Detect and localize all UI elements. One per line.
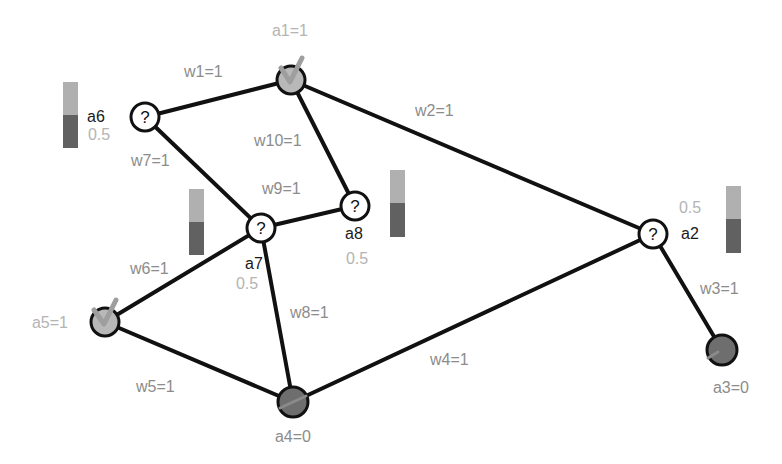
node-value-a2: 0.5 xyxy=(679,199,701,216)
node-label-a5: a5=1 xyxy=(32,314,68,331)
bar-a8 xyxy=(390,170,405,237)
node-a1[interactable]: a1=1 xyxy=(272,22,308,94)
bar-a7 xyxy=(189,189,204,255)
node-a3[interactable]: a3=0 xyxy=(707,335,749,396)
node-value-a7: 0.5 xyxy=(236,275,258,292)
node-a6[interactable]: ? a6 0.5 xyxy=(87,103,159,143)
edge-w1 xyxy=(145,80,291,117)
edge-label-w2: w2=1 xyxy=(414,102,454,119)
bar-a2 xyxy=(726,186,741,253)
node-value-a8: 0.5 xyxy=(346,250,368,267)
edge-label-w7: w7=1 xyxy=(130,152,170,169)
question-icon: ? xyxy=(648,225,657,244)
node-label-a7: a7 xyxy=(245,255,263,272)
node-label-a3: a3=0 xyxy=(713,379,749,396)
node-label-a6: a6 xyxy=(87,108,105,125)
edge-label-w4: w4=1 xyxy=(429,351,469,368)
question-icon: ? xyxy=(350,197,359,216)
node-a4[interactable]: a4=0 xyxy=(275,387,311,445)
question-icon: ? xyxy=(256,219,265,238)
edge-label-w10: w10=1 xyxy=(253,132,302,149)
edge-label-w6: w6=1 xyxy=(129,260,169,277)
node-label-a8: a8 xyxy=(345,225,363,242)
edge-label-w5: w5=1 xyxy=(135,378,175,395)
node-label-a4: a4=0 xyxy=(275,428,311,445)
node-label-a2: a2 xyxy=(681,225,699,242)
edge-w5 xyxy=(105,322,293,402)
node-a8[interactable]: ? a8 0.5 xyxy=(341,192,369,267)
edge-w8 xyxy=(261,228,293,402)
node-label-a1: a1=1 xyxy=(272,22,308,39)
edge-label-w8: w8=1 xyxy=(289,304,329,321)
bar-a6 xyxy=(63,82,78,148)
node-a2[interactable]: ? a2 0.5 xyxy=(639,199,701,248)
edge-label-w1: w1=1 xyxy=(183,63,223,80)
question-icon: ? xyxy=(140,108,149,127)
node-a5[interactable]: a5=1 xyxy=(32,300,119,336)
edge-label-w9: w9=1 xyxy=(261,180,301,197)
node-value-a6: 0.5 xyxy=(88,126,110,143)
edge-label-w3: w3=1 xyxy=(699,280,739,297)
network-diagram: w1=1 w2=1 w3=1 w4=1 w5=1 w6=1 w7=1 w8=1 … xyxy=(0,0,782,464)
